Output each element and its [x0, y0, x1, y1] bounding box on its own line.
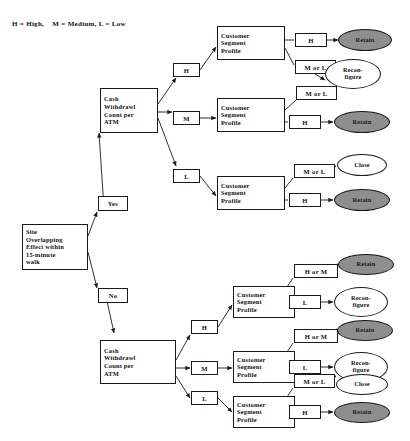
segment-node-csp-3[interactable]: Customer Segment Profile [217, 176, 285, 210]
root-node-site-overlapping-effect[interactable]: Site Overlapping Effect within 15-minute… [22, 224, 88, 270]
edge-label-csp2-medium-or-low[interactable]: M or L [296, 86, 337, 100]
branch-label-medium-top[interactable]: M [173, 111, 200, 125]
branch-label-low-bottom[interactable]: L [191, 391, 218, 405]
branch-label-high-bottom[interactable]: H [191, 320, 218, 334]
edge-label-csp4-high-or-medium[interactable]: H or M [294, 264, 338, 278]
branch-label-low-top[interactable]: L [173, 169, 200, 183]
outcome-node-retain-2[interactable]: Retain [334, 111, 390, 133]
outcome-node-close-2[interactable]: Close [336, 374, 388, 395]
outcome-node-retain-1[interactable]: Retain [338, 29, 392, 51]
segment-node-csp-4[interactable]: Customer Segment Profile [233, 286, 295, 318]
edge-label-csp1-high[interactable]: H [295, 33, 327, 47]
segment-node-csp-6[interactable]: Customer Segment Profile [233, 396, 295, 428]
legend-text: H = High, M = Medium, L = Low [12, 20, 126, 28]
edge-label-csp5-low[interactable]: L [289, 360, 321, 374]
branch-label-medium-bottom[interactable]: M [191, 361, 218, 375]
outcome-node-retain-4[interactable]: Retain [338, 254, 394, 275]
edge-label-csp6-medium-or-low[interactable]: M or L [294, 374, 335, 388]
edge-label-csp4-low[interactable]: L [289, 295, 321, 309]
driver-node-cash-withdrawal-top[interactable]: Cash Withdrawl Count per ATM [100, 88, 158, 133]
outcome-node-reconfigure-2[interactable]: Recon- figure [334, 287, 388, 317]
edge-label-csp3-medium-or-low[interactable]: M or L [294, 164, 335, 178]
edge-label-csp5-high-or-medium[interactable]: H or M [294, 329, 338, 343]
edge-label-csp2-high[interactable]: H [289, 115, 321, 129]
edge-label-csp3-high[interactable]: H [289, 193, 321, 207]
segment-node-csp-5[interactable]: Customer Segment Profile [233, 351, 295, 383]
branch-label-yes[interactable]: Yes [98, 196, 128, 211]
branch-label-high-top[interactable]: H [173, 63, 200, 77]
edge-label-csp6-high[interactable]: H [289, 405, 321, 419]
segment-node-csp-2[interactable]: Customer Segment Profile [217, 98, 285, 132]
outcome-node-retain-3[interactable]: Retain [334, 189, 390, 211]
branch-label-no[interactable]: No [98, 288, 128, 303]
outcome-node-close-1[interactable]: Close [337, 154, 387, 176]
driver-node-cash-withdrawal-bottom[interactable]: Cash Withdrawl Count per ATM [100, 340, 176, 384]
decision-tree-diagram: H = High, M = Medium, L = Low Site Overl… [0, 0, 410, 441]
outcome-node-retain-5[interactable]: Retain [337, 320, 393, 341]
outcome-node-reconfigure-1[interactable]: Recon- figure [325, 59, 381, 89]
segment-node-csp-1[interactable]: Customer Segment Profile [217, 26, 285, 60]
outcome-node-retain-6[interactable]: Retain [334, 402, 390, 423]
